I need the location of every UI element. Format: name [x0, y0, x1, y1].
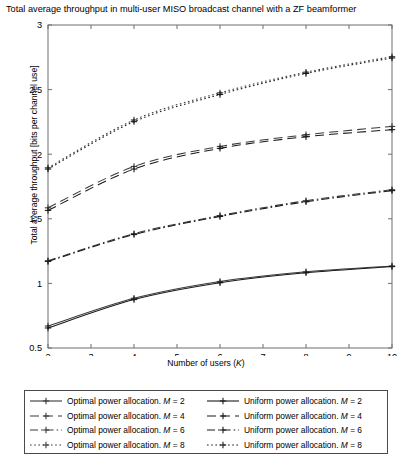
data-point-marker	[43, 442, 49, 448]
x-tick-label: 4	[131, 352, 136, 356]
legend: Optimal power allocation. M = 2 Uniform …	[24, 390, 388, 454]
legend-label: Uniform power allocation. M = 6	[244, 425, 362, 435]
legend-sample-uniform-m2	[206, 395, 240, 407]
legend-sample-optimal-m6	[29, 424, 63, 436]
data-point-marker	[45, 166, 51, 172]
data-point-marker	[217, 91, 223, 97]
legend-label: Uniform power allocation. M = 8	[244, 440, 362, 450]
legend-item-optimal-m4: Optimal power allocation. M = 4	[29, 410, 206, 422]
x-tick-label: 8	[303, 352, 308, 356]
legend-label: Optimal power allocation. M = 2	[67, 396, 185, 406]
legend-item-optimal-m6: Optimal power allocation. M = 6	[29, 424, 206, 436]
y-tick-label: 3	[37, 20, 42, 30]
legend-item-optimal-m8: Optimal power allocation. M = 8	[29, 439, 206, 451]
data-point-marker	[217, 280, 223, 286]
legend-sample-uniform-m6	[206, 424, 240, 436]
y-tick-label: 1	[37, 279, 42, 289]
data-point-marker	[303, 199, 309, 205]
x-tick-label: 2	[45, 352, 50, 356]
x-tick-label: 3	[88, 352, 93, 356]
data-point-marker	[389, 126, 395, 132]
x-axis-label: Number of users (K)	[0, 358, 412, 368]
x-tick-label: 6	[217, 352, 222, 356]
series-line-optimal-m2	[48, 266, 392, 326]
data-point-marker	[389, 263, 395, 269]
x-tick-label: 5	[174, 352, 179, 356]
legend-label: Optimal power allocation. M = 6	[67, 425, 185, 435]
chart-figure: Total average throughput in multi-user M…	[0, 0, 412, 462]
legend-item-optimal-m2: Optimal power allocation. M = 2	[29, 395, 206, 407]
data-point-marker	[220, 398, 226, 404]
plot-area: 23456789100.511.522.53	[0, 16, 412, 356]
y-axis-label: Total average throughput [bits per chann…	[29, 35, 39, 275]
legend-item-uniform-m8: Uniform power allocation. M = 8	[206, 439, 383, 451]
series-line-uniform-m4	[48, 130, 392, 211]
data-point-marker	[43, 427, 49, 433]
data-point-marker	[303, 270, 309, 276]
data-point-marker	[43, 413, 49, 419]
legend-sample-uniform-m8	[206, 439, 240, 451]
plot-svg: 23456789100.511.522.53	[0, 16, 412, 356]
data-point-marker	[389, 55, 395, 61]
legend-sample-optimal-m2	[29, 395, 63, 407]
series-line-optimal-m6	[48, 190, 392, 261]
data-point-marker	[43, 398, 49, 404]
data-point-marker	[220, 442, 226, 448]
data-point-marker	[303, 70, 309, 76]
data-point-marker	[389, 187, 395, 193]
legend-label: Uniform power allocation. M = 2	[244, 396, 362, 406]
legend-item-uniform-m2: Uniform power allocation. M = 2	[206, 395, 383, 407]
legend-label: Optimal power allocation. M = 4	[67, 411, 185, 421]
data-point-marker	[220, 413, 226, 419]
series-line-uniform-m6	[48, 191, 392, 262]
series-line-uniform-m8	[48, 58, 392, 169]
axes-frame	[48, 25, 392, 348]
legend-label: Uniform power allocation. M = 4	[244, 411, 362, 421]
legend-sample-optimal-m8	[29, 439, 63, 451]
data-point-marker	[217, 213, 223, 219]
x-tick-label: 10	[387, 352, 397, 356]
legend-row: Optimal power allocation. M = 4 Uniform …	[29, 409, 383, 424]
legend-row: Optimal power allocation. M = 2 Uniform …	[29, 394, 383, 409]
x-tick-label: 9	[346, 352, 351, 356]
legend-row: Optimal power allocation. M = 6 Uniform …	[29, 423, 383, 438]
legend-item-uniform-m4: Uniform power allocation. M = 4	[206, 410, 383, 422]
data-point-marker	[131, 231, 137, 237]
y-tick-label: 0.5	[29, 343, 42, 353]
legend-sample-optimal-m4	[29, 410, 63, 422]
data-point-marker	[220, 427, 226, 433]
legend-label: Optimal power allocation. M = 8	[67, 440, 185, 450]
legend-item-uniform-m6: Uniform power allocation. M = 6	[206, 424, 383, 436]
data-point-marker	[131, 118, 137, 124]
data-point-marker	[45, 258, 51, 264]
legend-row: Optimal power allocation. M = 8 Uniform …	[29, 438, 383, 453]
legend-sample-uniform-m4	[206, 410, 240, 422]
series-line-uniform-m2	[48, 267, 392, 328]
chart-title: Total average throughput in multi-user M…	[6, 3, 410, 15]
x-tick-label: 7	[260, 352, 265, 356]
